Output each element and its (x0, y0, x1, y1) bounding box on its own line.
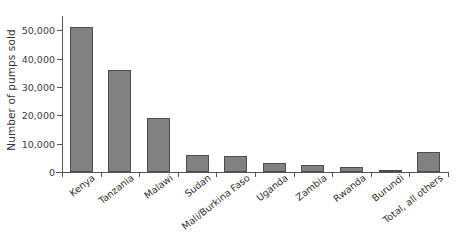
bar (70, 27, 93, 172)
y-tick-label: 50,000 (22, 25, 55, 36)
x-axis-label-text: Uganda (254, 172, 290, 203)
x-axis-label-text: Zambia (293, 172, 328, 203)
y-tick-label: 0 (49, 167, 55, 178)
bar-chart-figure: Number of pumps sold 010,00020,00030,000… (0, 0, 456, 246)
y-tick-label: 10,000 (22, 138, 55, 149)
y-axis-line (62, 16, 63, 172)
x-axis-label-text: Sudan (183, 172, 213, 199)
y-tick-mark (57, 115, 62, 116)
x-axis-labels: KenyaTanzaniaMalawiSudanMali/Burkina Fas… (62, 172, 448, 246)
x-axis-label-text: Mali/Burkina Faso (179, 172, 251, 232)
x-axis-label-text: Malawi (142, 172, 175, 201)
x-axis-label-text: Kenya (67, 172, 97, 199)
y-tick-mark (57, 144, 62, 145)
x-axis-label-text: Rwanda (330, 172, 367, 204)
x-axis-label-text: Tanzania (96, 172, 135, 206)
y-tick-mark (57, 59, 62, 60)
y-tick-label: 30,000 (22, 81, 55, 92)
x-axis-label-text: Burundi (370, 172, 406, 204)
y-tick-mark (57, 87, 62, 88)
y-tick-mark (57, 30, 62, 31)
y-tick-label: 40,000 (22, 53, 55, 64)
y-axis-title: Number of pumps sold (0, 0, 22, 180)
y-tick-label: 20,000 (22, 110, 55, 121)
y-axis-title-text: Number of pumps sold (5, 29, 17, 150)
